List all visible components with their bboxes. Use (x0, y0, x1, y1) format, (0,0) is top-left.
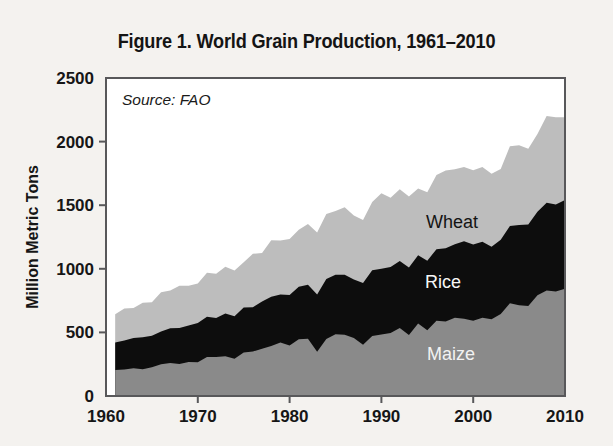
y-axis-tick-label: 0 (85, 387, 94, 406)
series-label-rice: Rice (425, 272, 461, 292)
y-axis-tick-label: 500 (66, 323, 94, 342)
series-label-maize: Maize (427, 344, 475, 364)
x-axis-tick-label: 1970 (179, 407, 217, 426)
y-axis-tick-label: 1000 (56, 260, 94, 279)
y-axis-tick-label: 1500 (56, 196, 94, 215)
x-axis-tick-label: 1990 (362, 407, 400, 426)
y-axis-title: Million Metric Tons (24, 165, 41, 309)
source-annotation: Source: FAO (122, 91, 210, 108)
x-axis-tick-label: 1980 (271, 407, 309, 426)
y-axis-tick-label: 2000 (56, 133, 94, 152)
x-axis-tick-label: 2000 (454, 407, 492, 426)
y-axis: 05001000150020002500 (56, 69, 106, 406)
y-axis-tick-label: 2500 (56, 69, 94, 88)
grain-production-area-chart: 05001000150020002500 1960197019801990200… (0, 0, 613, 446)
x-axis: 196019701980199020002010 (87, 396, 584, 426)
figure-container: Figure 1. World Grain Production, 1961–2… (0, 0, 613, 446)
x-axis-tick-label: 1960 (87, 407, 125, 426)
x-axis-tick-label: 2010 (546, 407, 584, 426)
series-label-wheat: Wheat (426, 212, 478, 232)
